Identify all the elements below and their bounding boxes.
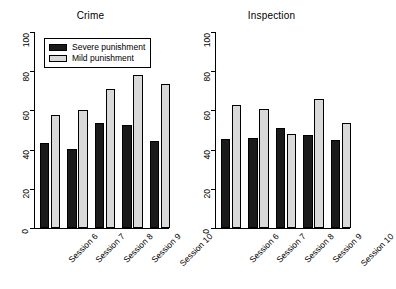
bar	[122, 125, 132, 228]
x-tick-label: Session 8	[122, 232, 155, 265]
bar	[221, 139, 231, 228]
y-tick-80: 80	[30, 71, 34, 72]
y-tick-60: 60	[211, 110, 215, 111]
panel-title-crime: Crime	[0, 10, 181, 22]
y-axis-line-inspection	[215, 32, 216, 228]
x-tick-label: Session 10	[360, 232, 396, 268]
x-axis-labels-crime: Session 6Session 7Session 8Session 9Sess…	[36, 230, 174, 288]
legend-swatch-severe-icon	[49, 44, 67, 51]
y-tick-label: 100	[22, 33, 31, 47]
bar	[161, 84, 171, 228]
bar	[133, 75, 143, 228]
bar	[51, 115, 61, 228]
y-tick-20: 20	[211, 189, 215, 190]
x-axis-line-crime	[34, 228, 169, 229]
y-tick-label: 80	[203, 72, 212, 81]
bar	[248, 138, 258, 228]
legend-swatch-mild-icon	[49, 55, 67, 62]
y-tick-label: 80	[22, 72, 31, 81]
y-tick-60: 60	[30, 110, 34, 111]
y-tick-mark	[211, 228, 215, 229]
bar	[259, 109, 269, 228]
x-tick-label: Session 8	[303, 232, 336, 265]
y-tick-label: 20	[203, 189, 212, 198]
y-tick-20: 20	[30, 189, 34, 190]
y-tick-label: 100	[203, 33, 212, 47]
y-axis-line-crime	[34, 32, 35, 228]
bar	[40, 143, 50, 228]
y-tick-80: 80	[211, 71, 215, 72]
y-tick-label: 0	[22, 229, 31, 234]
y-tick-label: 40	[22, 150, 31, 159]
bar	[287, 134, 297, 228]
y-tick-label: 60	[22, 111, 31, 120]
y-tick-100: 100	[211, 32, 215, 33]
bar	[342, 123, 352, 228]
bar	[314, 99, 324, 228]
panel-crime: Crime 020406080100 Session 6Session 7Ses…	[0, 0, 181, 289]
bar	[78, 110, 88, 228]
legend-item-mild: Mild punishment	[49, 53, 145, 64]
y-tick-label: 0	[203, 229, 212, 234]
x-axis-line-inspection	[215, 228, 350, 229]
y-tick-mark	[30, 228, 34, 229]
y-tick-label: 60	[203, 111, 212, 120]
bar	[106, 89, 116, 228]
y-tick-100: 100	[30, 32, 34, 33]
panel-inspection: Inspection 020406080100 Session 6Session…	[181, 0, 362, 289]
plot-area-inspection: 020406080100	[217, 32, 355, 228]
legend: Severe punishment Mild punishment	[44, 38, 151, 68]
legend-label-mild: Mild punishment	[72, 54, 134, 63]
y-tick-0: 0	[211, 228, 215, 229]
x-axis-labels-inspection: Session 6Session 7Session 8Session 9Sess…	[217, 230, 355, 288]
y-tick-label: 40	[203, 150, 212, 159]
bar	[67, 149, 77, 228]
y-tick-0: 0	[30, 228, 34, 229]
bar	[303, 135, 313, 228]
legend-label-severe: Severe punishment	[72, 43, 145, 52]
bar	[331, 140, 341, 228]
legend-item-severe: Severe punishment	[49, 42, 145, 53]
y-tick-40: 40	[211, 150, 215, 151]
bar-group-inspection	[217, 32, 355, 228]
bar	[276, 128, 286, 228]
bar	[150, 141, 160, 228]
bar	[95, 123, 105, 228]
y-tick-40: 40	[30, 150, 34, 151]
panel-title-inspection: Inspection	[181, 10, 362, 22]
y-tick-label: 20	[22, 189, 31, 198]
bar	[232, 105, 242, 228]
